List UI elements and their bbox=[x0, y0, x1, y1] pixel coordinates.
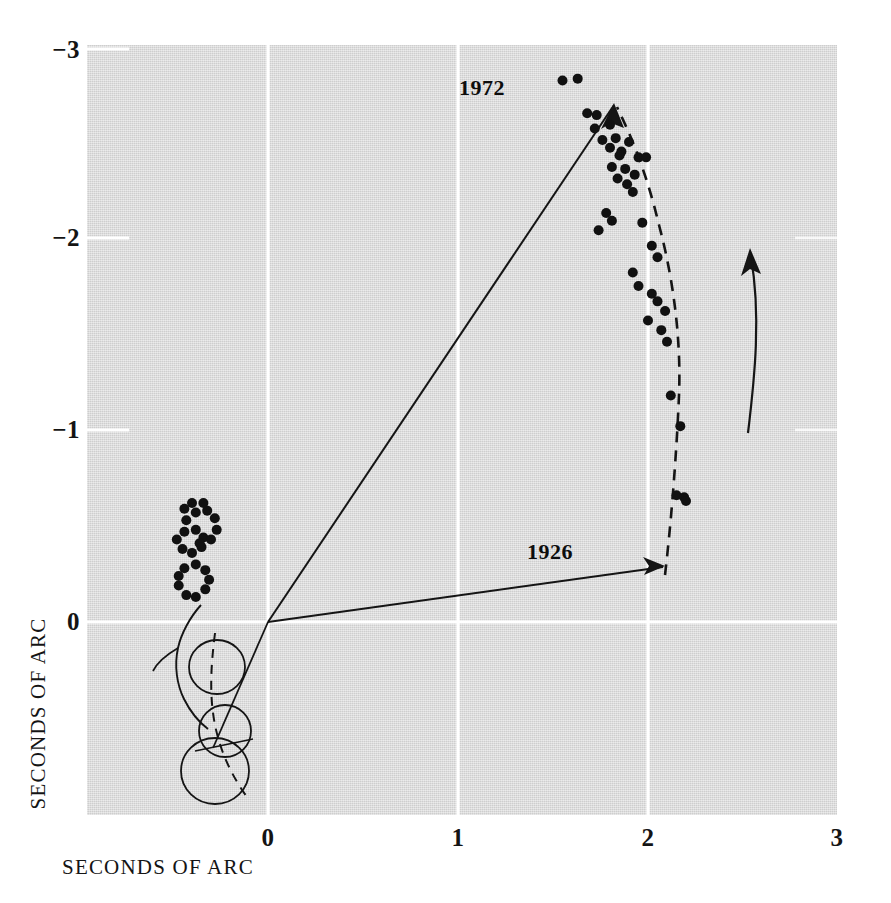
data-point bbox=[643, 316, 653, 326]
data-point bbox=[681, 496, 691, 506]
data-point bbox=[624, 137, 634, 147]
data-point bbox=[620, 164, 630, 174]
data-point bbox=[597, 135, 607, 145]
data-point bbox=[630, 170, 640, 180]
data-point bbox=[628, 187, 638, 197]
data-points-outer-arc bbox=[558, 74, 692, 506]
gridlines bbox=[87, 45, 837, 815]
data-point bbox=[174, 581, 184, 591]
inner-loop-upper bbox=[189, 640, 245, 694]
data-point bbox=[647, 241, 657, 251]
data-point bbox=[212, 525, 222, 535]
data-point bbox=[607, 162, 617, 172]
inner-loop-lower bbox=[181, 738, 249, 804]
annotation-year-1972: 1972 bbox=[459, 75, 505, 101]
data-point bbox=[179, 527, 189, 537]
data-point bbox=[594, 225, 604, 235]
data-point bbox=[592, 110, 602, 120]
x-tick-label-1: 1 bbox=[452, 824, 465, 852]
inner-curve-tail bbox=[153, 648, 178, 671]
data-point bbox=[181, 515, 191, 525]
data-points-inner-loops bbox=[172, 498, 222, 602]
data-point bbox=[653, 296, 663, 306]
plot-area: 1972 1926 bbox=[87, 45, 837, 815]
data-point bbox=[210, 513, 220, 523]
figure-root: 1972 1926 −3 −2 −1 0 0 1 2 3 SECONDS OF … bbox=[0, 0, 891, 903]
plot-canvas bbox=[87, 45, 837, 815]
direction-of-motion-arrowhead bbox=[741, 248, 761, 276]
inner-dashed-axis bbox=[211, 633, 247, 797]
data-point bbox=[634, 281, 644, 291]
data-point bbox=[582, 108, 592, 118]
data-point bbox=[605, 143, 615, 153]
data-point bbox=[172, 534, 182, 544]
y-axis-title: SECONDS OF ARC bbox=[26, 614, 51, 814]
data-point bbox=[656, 325, 666, 335]
data-point bbox=[187, 548, 197, 558]
data-point bbox=[607, 216, 617, 226]
y-tick-label-neg3: −3 bbox=[20, 36, 80, 64]
y-tick-label-neg2: −2 bbox=[20, 224, 80, 252]
data-point bbox=[558, 76, 568, 86]
data-point bbox=[613, 173, 623, 183]
direction-of-motion-arrow bbox=[748, 257, 756, 433]
data-point bbox=[573, 74, 583, 84]
data-point bbox=[200, 584, 210, 594]
data-point bbox=[628, 268, 638, 278]
data-point bbox=[191, 592, 201, 602]
data-point bbox=[206, 534, 216, 544]
annotation-year-1926: 1926 bbox=[527, 539, 573, 565]
data-point bbox=[675, 421, 685, 431]
arrowhead-1926 bbox=[643, 557, 665, 575]
data-point bbox=[637, 218, 647, 228]
radius-vector-1926 bbox=[268, 567, 663, 622]
data-point bbox=[198, 498, 208, 508]
data-point bbox=[605, 120, 615, 130]
x-tick-label-3: 3 bbox=[831, 824, 844, 852]
data-point bbox=[641, 152, 651, 162]
data-point bbox=[611, 133, 621, 143]
gridline-stubs bbox=[795, 238, 837, 430]
x-axis-title: SECONDS OF ARC bbox=[62, 855, 254, 880]
x-tick-label-2: 2 bbox=[642, 824, 655, 852]
y-tick-label-neg1: −1 bbox=[20, 416, 80, 444]
data-point bbox=[178, 544, 188, 554]
data-point bbox=[191, 508, 201, 518]
data-point bbox=[200, 565, 210, 575]
data-point bbox=[191, 559, 201, 569]
data-point bbox=[187, 498, 197, 508]
data-point bbox=[666, 390, 676, 400]
data-point bbox=[662, 337, 672, 347]
data-point bbox=[174, 571, 184, 581]
data-point bbox=[660, 306, 670, 316]
data-point bbox=[653, 252, 663, 262]
data-point bbox=[191, 525, 201, 535]
data-point bbox=[195, 538, 205, 548]
x-tick-label-0: 0 bbox=[262, 824, 275, 852]
data-point bbox=[204, 575, 214, 585]
data-point bbox=[590, 124, 600, 134]
data-point bbox=[615, 150, 625, 160]
data-point bbox=[181, 590, 191, 600]
